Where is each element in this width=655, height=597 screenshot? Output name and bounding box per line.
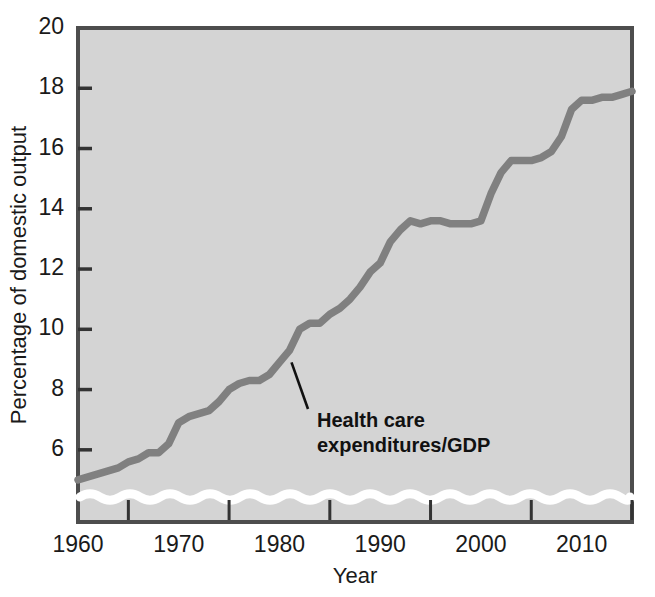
x-axis-tick-label: 1990: [355, 531, 406, 557]
health-care-gdp-line-chart: 68101214161820 196019701980199020002010 …: [0, 0, 655, 597]
x-axis-tick-label: 1960: [52, 531, 103, 557]
y-axis-tick-label: 18: [38, 73, 64, 99]
chart-figure: 68101214161820 196019701980199020002010 …: [0, 0, 655, 597]
y-axis-tick-label: 20: [38, 13, 64, 39]
x-axis-title: Year: [333, 563, 377, 588]
y-axis-tick-label: 16: [38, 134, 64, 160]
y-axis-tick-labels: 68101214161820: [38, 13, 64, 461]
annotation-line-1: Health care: [317, 409, 425, 431]
y-axis-tick-label: 14: [38, 194, 64, 220]
y-axis-tick-label: 6: [51, 435, 64, 461]
y-axis-tick-label: 8: [51, 375, 64, 401]
x-axis-tick-label: 1970: [153, 531, 204, 557]
y-axis-title: Percentage of domestic output: [6, 126, 31, 424]
x-axis-tick-labels: 196019701980199020002010: [52, 531, 607, 557]
y-axis-tick-label: 12: [38, 254, 64, 280]
x-axis-tick-label: 2010: [556, 531, 607, 557]
x-axis-tick-label: 2000: [455, 531, 506, 557]
x-axis-tick-label: 1980: [254, 531, 305, 557]
annotation-line-2: expenditures/GDP: [317, 434, 490, 456]
y-axis-tick-label: 10: [38, 314, 64, 340]
